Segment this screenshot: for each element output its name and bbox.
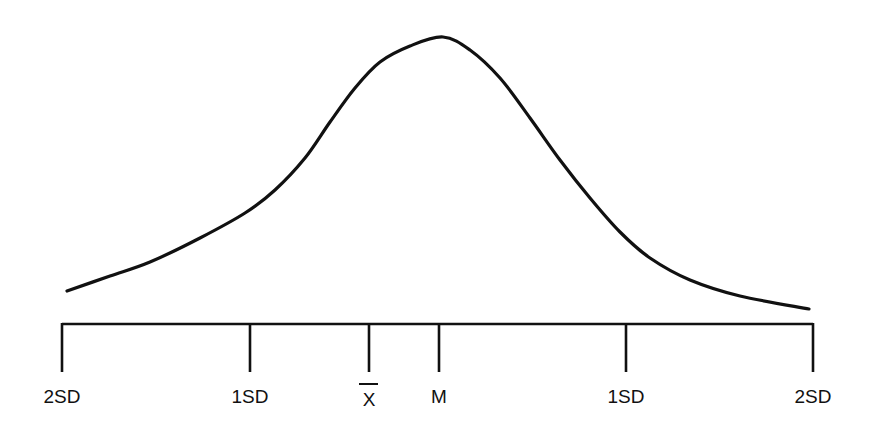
label-right-2sd: 2SD <box>795 386 832 407</box>
label-right-1sd: 1SD <box>608 386 645 407</box>
label-left-2sd: 2SD <box>44 386 81 407</box>
label-mean: X <box>363 389 376 410</box>
distribution-diagram: 2SD 1SD X M 1SD 2SD <box>0 0 881 440</box>
label-left-1sd: 1SD <box>232 386 269 407</box>
distribution-curve <box>67 37 809 309</box>
label-median: M <box>431 386 447 407</box>
